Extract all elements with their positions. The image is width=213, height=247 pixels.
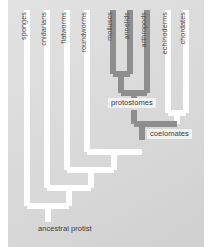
tip-label-annelids: annelids <box>123 12 130 40</box>
tip-label-sponges: sponges <box>20 12 27 40</box>
node-label-protostomes: protostomes <box>108 98 156 108</box>
tip-label-cnidarians: cnidarians <box>40 12 47 46</box>
tip-label-roundworms: roundworms <box>80 12 87 53</box>
tip-label-flatworms: flatworms <box>60 12 67 44</box>
phylogenetic-tree-figure: sponges cnidarians flatworms roundworms … <box>0 0 213 247</box>
tip-label-arthropods: arthropods <box>140 12 147 47</box>
tip-label-molluscs: molluscs <box>106 12 113 41</box>
tip-label-echinoderms: echinoderms <box>161 12 168 54</box>
diagram-panel: sponges cnidarians flatworms roundworms … <box>8 0 204 247</box>
tip-label-chordates: chordates <box>179 12 186 44</box>
node-label-coelomates: coelomates <box>147 129 192 139</box>
root-label-ancestral-protist: ancestral protist <box>38 225 92 233</box>
